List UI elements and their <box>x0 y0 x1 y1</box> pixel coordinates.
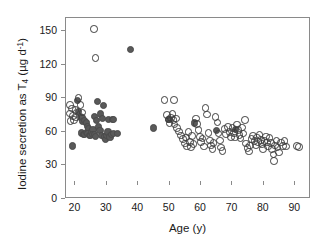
x-tick-label-20: 20 <box>69 202 81 213</box>
x-tick-label-70: 70 <box>226 202 238 213</box>
data-point-open <box>77 101 85 109</box>
data-point-filled <box>69 142 76 149</box>
x-tick-label-50: 50 <box>163 202 175 213</box>
data-point-open <box>90 25 98 33</box>
x-tick-label-60: 60 <box>194 202 206 213</box>
data-point-filled <box>114 130 121 137</box>
data-point-open <box>172 115 180 123</box>
data-point-open <box>203 111 211 119</box>
data-point-open <box>270 157 278 165</box>
x-tick-20 <box>74 181 75 185</box>
data-point-open <box>72 114 80 122</box>
data-point-filled <box>127 46 134 53</box>
x-tick-40 <box>137 181 138 185</box>
data-point-open <box>170 96 178 104</box>
x-tick-80 <box>263 181 264 185</box>
data-point-open <box>205 129 213 137</box>
data-point-open <box>240 130 248 138</box>
data-point-open <box>295 143 303 151</box>
y-tick-60 <box>61 131 65 132</box>
data-point-filled <box>150 124 157 131</box>
x-tick-label-90: 90 <box>288 202 300 213</box>
y-tick-30 <box>61 164 65 165</box>
x-tick-70 <box>231 181 232 185</box>
y-axis-label: Iodine secretion as T4 (µg d-1) <box>16 14 30 214</box>
scatter-plot-figure: 2030405060708090 0306090120150 Age (y) I… <box>0 0 325 250</box>
y-axis-label-mid: (µg d <box>16 49 28 79</box>
data-point-open <box>92 54 100 62</box>
y-axis-label-superscript: -1 <box>16 42 25 49</box>
y-tick-120 <box>61 64 65 65</box>
y-axis-label-subscript: 4 <box>21 79 30 84</box>
y-tick-150 <box>61 30 65 31</box>
x-axis-label: Age (y) <box>65 222 310 234</box>
data-point-open <box>190 140 198 148</box>
data-point-filled <box>100 102 107 109</box>
data-points-layer <box>66 18 309 197</box>
data-point-open <box>282 143 290 151</box>
data-point-open <box>214 119 222 127</box>
data-point-open <box>188 132 196 140</box>
data-point-open <box>216 137 224 145</box>
x-tick-label-40: 40 <box>131 202 143 213</box>
x-tick-label-80: 80 <box>257 202 269 213</box>
y-axis-label-pre: Iodine secretion as T <box>16 83 28 190</box>
data-point-open <box>241 116 249 124</box>
y-axis-label-post: ) <box>16 38 28 42</box>
x-tick-50 <box>169 181 170 185</box>
y-tick-90 <box>61 97 65 98</box>
x-tick-60 <box>200 181 201 185</box>
plot-frame <box>65 17 310 198</box>
data-point-open <box>161 96 169 104</box>
y-tick-0 <box>61 198 65 199</box>
data-point-open <box>219 147 227 155</box>
x-tick-90 <box>294 181 295 185</box>
x-tick-30 <box>106 181 107 185</box>
x-tick-label-30: 30 <box>100 202 112 213</box>
data-point-filled <box>110 116 117 123</box>
data-point-open <box>275 149 283 157</box>
